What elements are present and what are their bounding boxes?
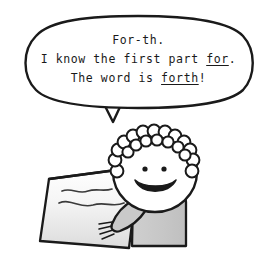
comic-illustration: For-th. I know the first part for. The w… [0,0,277,271]
speech-bubble-outline [26,16,253,108]
right-eye [161,166,166,171]
speech-bubble [26,16,253,122]
illustration-canvas [0,0,277,271]
left-eye [142,166,147,171]
